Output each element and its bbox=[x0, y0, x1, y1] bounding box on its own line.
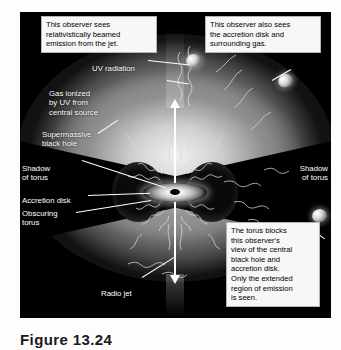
callout-observer-blocked: The torus blocks this observer's view of… bbox=[226, 222, 320, 307]
radio-jet-lower bbox=[174, 200, 176, 278]
supermassive-black-hole-graphic bbox=[170, 189, 180, 195]
figure-caption: Figure 13.24 bbox=[20, 331, 200, 350]
callout-observer-blocked-line-4: black hole and bbox=[231, 255, 315, 265]
callout-observer-jet-line-3: emission from the jet. bbox=[46, 39, 152, 49]
figure-container: This observer sees relativistically beam… bbox=[0, 0, 341, 350]
label-radio-jet: Radio jet bbox=[101, 289, 132, 298]
callout-observer-blocked-line-7: region of emission bbox=[231, 284, 315, 294]
callout-observer-blocked-line-3: view of the central bbox=[231, 245, 315, 255]
label-gas-ionized: Gas ionized by UV from central source bbox=[49, 89, 98, 117]
callout-observer-blocked-line-5: accretion disk. bbox=[231, 264, 315, 274]
label-shadow-of-torus-left: Shadow of torus bbox=[22, 164, 50, 183]
label-obscuring-torus: Obscuring torus bbox=[22, 209, 58, 228]
callout-observer-blocked-line-8: is seen. bbox=[231, 293, 315, 303]
callout-observer-disk: This observer also sees the accretion di… bbox=[205, 16, 321, 53]
label-supermassive-black-hole: Supermassive black hole bbox=[42, 130, 91, 149]
callout-observer-jet-line-1: This observer sees bbox=[46, 20, 152, 30]
callout-observer-disk-line-2: the accretion disk and bbox=[210, 30, 316, 40]
callout-observer-disk-line-3: surrounding gas. bbox=[210, 39, 316, 49]
callout-observer-blocked-line-2: this observer's bbox=[231, 236, 315, 246]
label-shadow-of-torus-right: Shadow of torus bbox=[266, 164, 328, 183]
radio-jet-upper bbox=[174, 105, 176, 185]
jet-arrowhead-up bbox=[170, 99, 180, 108]
callout-observer-disk-line-1: This observer also sees bbox=[210, 20, 316, 30]
callout-observer-blocked-line-6: Only the extended bbox=[231, 274, 315, 284]
callout-observer-jet-line-2: relativistically beamed bbox=[46, 30, 152, 40]
label-accretion-disk: Accretion disk bbox=[22, 196, 71, 205]
label-uv-radiation: UV radiation bbox=[92, 64, 135, 73]
callout-observer-blocked-line-1: The torus blocks bbox=[231, 226, 315, 236]
callout-observer-jet: This observer sees relativistically beam… bbox=[41, 16, 157, 53]
jet-arrowhead-down bbox=[170, 275, 180, 284]
